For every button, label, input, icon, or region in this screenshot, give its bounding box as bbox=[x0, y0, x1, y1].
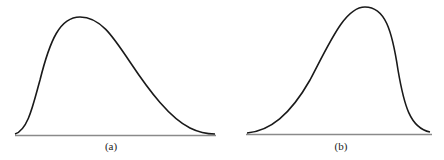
panel-b bbox=[246, 7, 432, 135]
panel-a bbox=[15, 17, 216, 136]
panel-b-label: (b) bbox=[321, 140, 361, 152]
panel-a-curve-right-skewed bbox=[15, 17, 215, 134]
skewed-distributions-figure bbox=[0, 0, 444, 160]
panel-b-curve-left-skewed bbox=[247, 7, 430, 133]
panel-a-label: (a) bbox=[91, 140, 131, 152]
